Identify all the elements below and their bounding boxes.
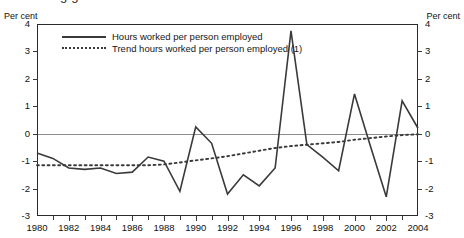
x-tick [196, 216, 197, 221]
y-tick-label: -2 [22, 183, 30, 194]
x-tick [69, 216, 70, 221]
x-tick-label: 2002 [376, 222, 397, 233]
x-tick [355, 216, 356, 221]
y-tick-label: -1 [22, 155, 30, 166]
x-tick [53, 216, 54, 220]
x-tick-label: 1998 [312, 222, 333, 233]
x-tick-label: 1988 [153, 222, 174, 233]
y-tick-label: 2 [425, 73, 430, 84]
legend-item-hours-worked: Hours worked per person employed [62, 31, 302, 43]
x-tick [85, 216, 86, 220]
chart-legend: Hours worked per person employed Trend h… [62, 31, 302, 54]
x-tick [132, 216, 133, 221]
x-tick [259, 216, 260, 221]
x-tick [212, 216, 213, 220]
y-axis-unit-left: Per cent [4, 11, 38, 21]
cut-off-title-text: g g [60, 0, 79, 3]
y-tick-label: -3 [425, 210, 433, 221]
x-tick [291, 216, 292, 221]
x-tick [116, 216, 117, 220]
legend-item-trend-hours-worked: Trend hours worked per person employed (… [62, 43, 302, 55]
series-line-path [37, 31, 418, 197]
x-tick [323, 216, 324, 221]
x-tick-label: 1982 [58, 222, 79, 233]
x-tick-label: 1996 [280, 222, 301, 233]
y-axis-unit-right: Per cent [426, 11, 460, 21]
x-tick-label: 1984 [90, 222, 111, 233]
x-tick [275, 216, 276, 220]
x-tick [180, 216, 181, 220]
legend-label-trend-hours-worked: Trend hours worked per person employed (… [112, 43, 302, 55]
x-tick-label: 1986 [122, 222, 143, 233]
y-tick-label: 1 [425, 100, 430, 111]
cut-off-title: g g [0, 0, 464, 7]
legend-label-hours-worked: Hours worked per person employed [112, 31, 263, 43]
y-tick-label: 3 [425, 45, 430, 56]
y-tick-label: 0 [425, 128, 430, 139]
y-tick-label: -2 [425, 183, 433, 194]
y-tick-label: 3 [25, 45, 30, 56]
y-tick-label: 2 [25, 73, 30, 84]
x-tick-label: 1990 [185, 222, 206, 233]
y-tick-label: 1 [25, 100, 30, 111]
x-tick [386, 216, 387, 221]
x-tick [164, 216, 165, 221]
x-tick [228, 216, 229, 221]
legend-swatch-dotted-icon [62, 43, 106, 53]
x-tick-label: 2004 [407, 222, 428, 233]
x-tick [243, 216, 244, 220]
trend-line-path [37, 134, 418, 165]
x-tick [370, 216, 371, 220]
y-tick-label: -1 [425, 155, 433, 166]
x-tick [402, 216, 403, 220]
x-tick [339, 216, 340, 220]
x-tick [101, 216, 102, 221]
chart-container: g g Per cent Per cent 4433221100-1-1-2-2… [0, 0, 464, 238]
y-tick-label: 4 [25, 18, 30, 29]
y-tick-label: -3 [22, 210, 30, 221]
x-tick-label: 1994 [249, 222, 270, 233]
legend-swatch-solid-icon [62, 32, 106, 42]
x-tick [307, 216, 308, 220]
x-tick [148, 216, 149, 220]
x-tick-label: 1992 [217, 222, 238, 233]
x-tick-label: 2000 [344, 222, 365, 233]
x-tick-label: 1980 [26, 222, 47, 233]
y-tick-label: 4 [425, 18, 430, 29]
y-tick-label: 0 [25, 128, 30, 139]
